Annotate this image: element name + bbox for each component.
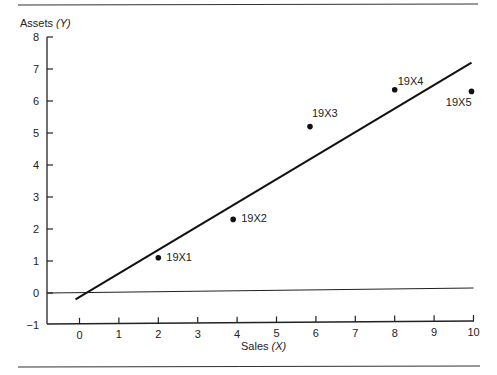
x-tick-label: 6	[313, 327, 319, 339]
scatter-chart: −1012345678 012345678910 19X119X219X319X…	[0, 0, 497, 375]
x-tick-label: 8	[392, 327, 398, 339]
top-rule	[18, 4, 478, 5]
zero-line	[47, 288, 474, 293]
point-label: 19X1	[166, 251, 192, 263]
y-tick-label: 2	[33, 223, 39, 235]
x-tick-label: 10	[467, 326, 479, 338]
data-point	[307, 124, 313, 130]
x-axis: 012345678910	[47, 315, 480, 341]
x-tick-label: 2	[155, 328, 161, 340]
data-point	[392, 87, 398, 93]
y-tick-label: 5	[33, 127, 39, 139]
x-tick-label: 9	[431, 326, 437, 338]
x-tick-label: 5	[273, 327, 279, 339]
regression-line	[76, 63, 472, 300]
data-point	[156, 255, 162, 261]
y-tick-label: 1	[33, 255, 39, 267]
x-tick-label: 1	[116, 328, 122, 340]
y-tick-label: 8	[33, 31, 39, 43]
y-tick-label: 0	[33, 287, 39, 299]
y-tick-label: 6	[33, 95, 39, 107]
x-axis-title: Sales (X)	[241, 340, 287, 352]
point-label: 19X3	[312, 107, 338, 119]
x-tick-label: 7	[352, 327, 358, 339]
y-axis: −1012345678	[26, 31, 53, 331]
x-tick-label: 0	[76, 329, 82, 341]
y-tick-label: −1	[26, 319, 39, 331]
y-axis-title: Assets (Y)	[20, 17, 71, 29]
point-label: 19X5	[446, 96, 472, 108]
x-tick-label: 4	[234, 328, 240, 340]
y-tick-label: 3	[33, 191, 39, 203]
data-points: 19X119X219X319X419X5	[156, 75, 475, 263]
data-point	[230, 217, 236, 223]
point-label: 19X2	[241, 212, 267, 224]
y-tick-label: 4	[33, 159, 39, 171]
x-tick-label: 3	[195, 328, 201, 340]
data-point	[469, 89, 475, 95]
bottom-rule	[18, 366, 480, 367]
point-label: 19X4	[398, 75, 424, 87]
y-tick-label: 7	[33, 63, 39, 75]
